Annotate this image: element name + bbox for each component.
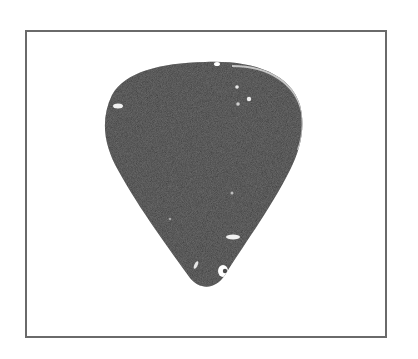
pick-body	[105, 62, 302, 287]
guitar-pick-image	[0, 0, 418, 359]
